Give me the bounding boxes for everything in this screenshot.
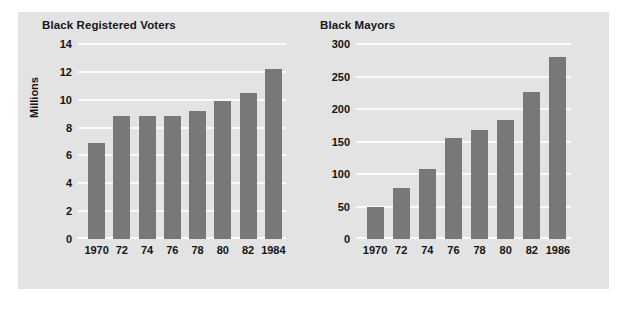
chart-title: Black Registered Voters xyxy=(42,19,176,31)
y-axis-tick-label: 0 xyxy=(344,233,350,245)
bar: 80 xyxy=(497,120,514,239)
x-axis-tick-label: 80 xyxy=(500,244,512,256)
x-axis-tick-label: 74 xyxy=(421,244,433,256)
y-axis-tick-label: 250 xyxy=(332,71,350,83)
bar: 78 xyxy=(189,111,206,239)
bar: 76 xyxy=(445,138,462,239)
bar: 72 xyxy=(113,116,130,239)
x-axis-tick-label: 76 xyxy=(166,244,178,256)
bar: 82 xyxy=(240,93,257,239)
y-axis-tick-label: 4 xyxy=(66,177,72,189)
bar: 1970 xyxy=(367,207,384,240)
y-axis-tick-label: 200 xyxy=(332,103,350,115)
x-axis-tick-label: 82 xyxy=(242,244,254,256)
bar: 74 xyxy=(419,169,436,239)
chart-black-registered-voters: Black Registered Voters Millions 0246810… xyxy=(18,0,296,277)
x-axis-tick-label: 78 xyxy=(192,244,204,256)
y-axis-tick-label: 6 xyxy=(66,149,72,161)
plot-area: 02468101214 19707274767880821984 xyxy=(78,44,286,239)
x-axis-tick-label: 74 xyxy=(141,244,153,256)
x-axis-tick-label: 78 xyxy=(473,244,485,256)
x-axis-tick-label: 80 xyxy=(217,244,229,256)
y-axis-label: Millions xyxy=(28,77,40,118)
bar: 82 xyxy=(523,92,540,239)
x-axis-tick-label: 82 xyxy=(526,244,538,256)
y-axis-tick-label: 150 xyxy=(332,136,350,148)
bar: 78 xyxy=(471,130,488,239)
bar: 1986 xyxy=(549,57,566,239)
bar-series: 19707274767880821986 xyxy=(356,44,571,239)
x-axis-tick-label: 72 xyxy=(395,244,407,256)
y-axis-tick-label: 12 xyxy=(60,66,72,78)
y-axis-tick-label: 100 xyxy=(332,168,350,180)
figure: Black Registered Voters Millions 0246810… xyxy=(0,0,627,311)
bar: 76 xyxy=(164,116,181,239)
bar-series: 19707274767880821984 xyxy=(78,44,286,239)
x-axis-tick-label: 1970 xyxy=(363,244,387,256)
y-axis-tick-label: 14 xyxy=(60,38,72,50)
plot-area: 050100150200250300 19707274767880821986 xyxy=(356,44,571,239)
x-axis-tick-label: 1986 xyxy=(546,244,570,256)
x-axis-tick-label: 1970 xyxy=(84,244,108,256)
y-axis-tick-label: 8 xyxy=(66,122,72,134)
y-axis-tick-label: 10 xyxy=(60,94,72,106)
y-axis-tick-label: 50 xyxy=(338,201,350,213)
bar: 72 xyxy=(393,188,410,239)
x-axis-tick-label: 1984 xyxy=(261,244,285,256)
bar: 74 xyxy=(139,116,156,239)
y-axis-tick-label: 2 xyxy=(66,205,72,217)
bar: 1970 xyxy=(88,143,105,239)
chart-title: Black Mayors xyxy=(320,19,395,31)
y-axis-tick-label: 0 xyxy=(66,233,72,245)
bar: 1984 xyxy=(265,69,282,239)
x-axis-tick-label: 76 xyxy=(447,244,459,256)
x-axis-tick-label: 72 xyxy=(116,244,128,256)
y-axis-tick-label: 300 xyxy=(332,38,350,50)
chart-black-mayors: Black Mayors 050100150200250300 19707274… xyxy=(300,0,585,277)
bar: 80 xyxy=(214,101,231,239)
